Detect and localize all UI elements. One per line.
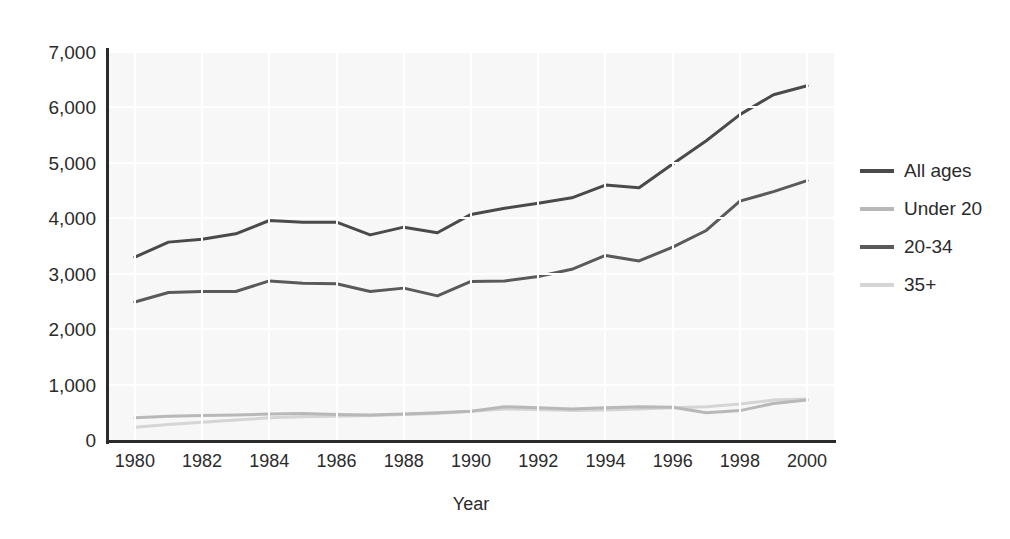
y-axis-tick-label: 7,000 (0, 43, 96, 62)
legend-item[interactable]: Under 20 (860, 190, 1000, 228)
y-axis-tick-label: 2,000 (0, 320, 96, 339)
y-axis-tick-label: 6,000 (0, 98, 96, 117)
y-axis-tick-label: 0 (0, 431, 96, 450)
gridline-vertical (470, 52, 472, 440)
legend-swatch-icon (860, 283, 894, 287)
chart-legend: All ages Under 20 20-34 35+ (860, 152, 1000, 304)
y-axis-tick-label: 1,000 (0, 376, 96, 395)
gridline-vertical (201, 52, 203, 440)
gridline-vertical (336, 52, 338, 440)
legend-item[interactable]: 20-34 (860, 228, 1000, 266)
legend-item[interactable]: All ages (860, 152, 1000, 190)
gridline-vertical (268, 52, 270, 440)
legend-item-label: 35+ (904, 274, 936, 296)
y-axis-tick-label: 4,000 (0, 209, 96, 228)
line-chart-figure: 01,0002,0003,0004,0005,0006,0007,000 198… (0, 0, 1010, 539)
legend-swatch-icon (860, 207, 894, 211)
gridline-vertical (403, 52, 405, 440)
plot-area (108, 52, 834, 440)
legend-swatch-icon (860, 245, 894, 249)
y-axis-tick-label: 5,000 (0, 154, 96, 173)
y-axis-tick-label: 3,000 (0, 265, 96, 284)
x-axis-line (106, 440, 836, 443)
x-axis-tick-label: 2000 (767, 452, 847, 470)
gridline-vertical (604, 52, 606, 440)
legend-item[interactable]: 35+ (860, 266, 1000, 304)
gridline-vertical (806, 52, 808, 440)
gridline-vertical (134, 52, 136, 440)
legend-item-label: All ages (904, 160, 972, 182)
y-axis-line (106, 48, 109, 444)
gridline-vertical (739, 52, 741, 440)
gridline-vertical (537, 52, 539, 440)
legend-item-label: 20-34 (904, 236, 953, 258)
x-axis-title: Year (108, 494, 834, 515)
legend-swatch-icon (860, 169, 894, 173)
legend-item-label: Under 20 (904, 198, 982, 220)
gridline-vertical (672, 52, 674, 440)
